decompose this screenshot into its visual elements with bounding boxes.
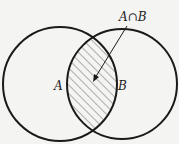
intersection-label: A∩B (118, 10, 147, 24)
venn-diagram: A B A∩B (0, 0, 179, 144)
set-a-label: A (53, 79, 63, 93)
set-b-label: B (117, 79, 127, 93)
